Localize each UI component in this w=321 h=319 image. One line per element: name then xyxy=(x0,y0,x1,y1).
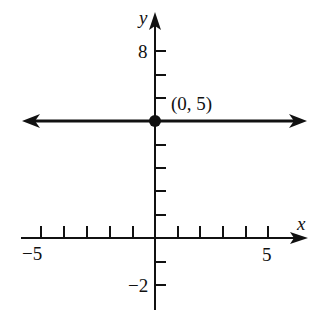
y-ticks xyxy=(155,51,166,285)
point-0-5 xyxy=(149,115,161,127)
y-tick-label-neg2: −2 xyxy=(128,275,148,296)
y-axis xyxy=(149,12,161,310)
y-axis-label: y xyxy=(137,7,148,28)
x-axis-label: x xyxy=(296,213,306,234)
line-y-equals-5 xyxy=(22,114,307,128)
coordinate-plane: y x 8 −2 −5 5 (0, 5) xyxy=(0,0,321,319)
x-tick-label-5: 5 xyxy=(262,244,272,265)
y-tick-label-8: 8 xyxy=(138,41,148,62)
point-label: (0, 5) xyxy=(171,93,212,115)
x-tick-label-neg5: −5 xyxy=(22,243,42,264)
